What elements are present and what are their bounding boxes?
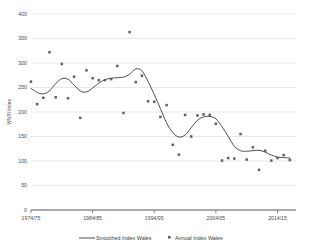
data-point-marker bbox=[54, 96, 57, 99]
data-point-marker bbox=[159, 116, 162, 119]
chart-container: 050100150200250300350400 1974/751984/851… bbox=[0, 0, 310, 250]
data-point-marker bbox=[73, 75, 76, 78]
data-point-marker bbox=[190, 135, 193, 138]
data-point-marker bbox=[178, 153, 181, 156]
y-axis-tick-label: 400 bbox=[18, 11, 27, 17]
data-point-marker bbox=[258, 169, 261, 172]
data-point-marker bbox=[215, 123, 218, 126]
data-point-marker bbox=[289, 159, 292, 162]
legend-label-smoothed: Smoothed Index Wales bbox=[96, 235, 152, 241]
data-point-marker bbox=[276, 157, 279, 160]
x-axis-tick-label: 1974/75 bbox=[22, 215, 41, 221]
data-point-marker bbox=[227, 157, 230, 160]
x-axis-tick-label: 2014/15 bbox=[268, 215, 287, 221]
data-point-marker bbox=[85, 69, 88, 72]
data-point-marker bbox=[171, 144, 174, 147]
data-point-marker bbox=[122, 112, 125, 115]
legend-square-swatch-icon bbox=[168, 236, 171, 239]
data-point-marker bbox=[91, 77, 94, 80]
data-point-marker bbox=[184, 114, 187, 117]
y-axis-tick-label: 300 bbox=[18, 60, 27, 66]
x-axis-tick-label: 1984/85 bbox=[83, 215, 102, 221]
data-point-marker bbox=[252, 146, 255, 149]
data-point-marker bbox=[208, 114, 211, 117]
y-axis-title: WNBI Index bbox=[7, 99, 12, 125]
data-point-marker bbox=[128, 31, 131, 33]
y-axis-tick-label: 250 bbox=[18, 84, 27, 90]
data-point-marker bbox=[36, 103, 39, 106]
y-axis-tick-label: 350 bbox=[18, 35, 27, 41]
y-axis-tick-label: 200 bbox=[18, 109, 27, 115]
data-point-marker bbox=[233, 157, 236, 160]
data-point-marker bbox=[67, 97, 70, 100]
chart-legend: Smoothed Index Wales Annual Index Wales bbox=[79, 235, 223, 241]
data-point-marker bbox=[202, 113, 205, 116]
data-point-marker bbox=[165, 104, 168, 107]
data-point-marker bbox=[110, 78, 113, 81]
data-point-marker bbox=[30, 80, 33, 83]
y-axis-tick-label: 100 bbox=[18, 158, 27, 164]
data-point-marker bbox=[135, 81, 138, 84]
x-axis-tick-label: 2004/05 bbox=[207, 215, 226, 221]
data-point-marker bbox=[245, 158, 248, 161]
data-point-marker bbox=[61, 63, 64, 65]
data-point-marker bbox=[48, 51, 51, 54]
data-point-marker bbox=[116, 65, 119, 68]
legend-label-annual: Annual Index Wales bbox=[175, 235, 223, 241]
data-point-marker bbox=[147, 100, 150, 103]
data-point-marker bbox=[153, 100, 156, 103]
data-point-marker bbox=[98, 79, 101, 82]
data-point-marker bbox=[42, 97, 45, 100]
data-point-marker bbox=[270, 159, 273, 162]
data-point-marker bbox=[196, 114, 199, 117]
chart-background bbox=[0, 0, 310, 250]
data-point-marker bbox=[104, 79, 107, 82]
y-axis-tick-label: 50 bbox=[21, 182, 27, 188]
y-axis-tick-label: 0 bbox=[24, 207, 27, 213]
data-point-marker bbox=[79, 117, 82, 120]
data-point-marker bbox=[264, 149, 267, 152]
x-axis-tick-label: 1994/95 bbox=[145, 215, 164, 221]
y-axis-tick-label: 150 bbox=[18, 133, 27, 139]
data-point-marker bbox=[282, 154, 285, 157]
data-point-marker bbox=[221, 159, 224, 162]
data-point-marker bbox=[239, 133, 242, 136]
wnbi-index-chart: 050100150200250300350400 1974/751984/851… bbox=[0, 0, 310, 250]
data-point-marker bbox=[141, 74, 144, 77]
